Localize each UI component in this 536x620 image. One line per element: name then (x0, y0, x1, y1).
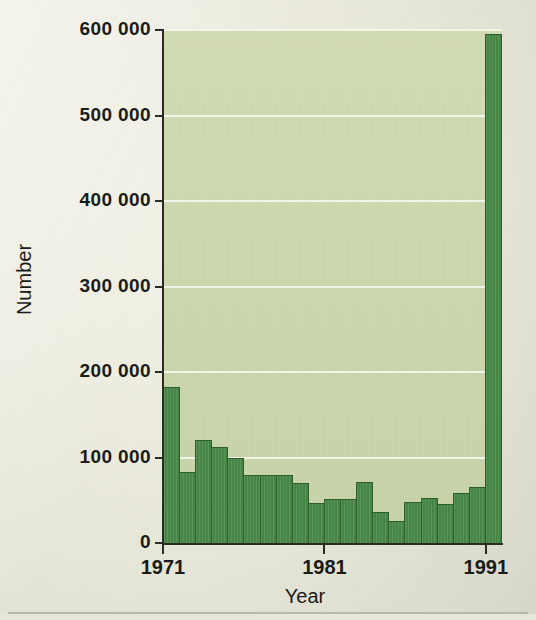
bar-series (163, 30, 502, 543)
bar-1972 (179, 472, 196, 543)
x-axis-title-text: Year (285, 585, 325, 608)
y-axis-line (162, 29, 164, 544)
chart-figure: Number 0100 000200 000300 000400 000500 … (0, 0, 536, 620)
bar-1981 (324, 499, 341, 543)
y-tick-label-100000: 100 000 (11, 446, 151, 468)
x-tick-label-1971: 1971 (141, 556, 186, 579)
x-axis-title: Year (0, 585, 536, 608)
y-tick-label-600000: 600 000 (11, 18, 151, 40)
bar-1986 (404, 502, 421, 543)
bar-1987 (421, 498, 438, 543)
bottom-strip (0, 614, 536, 620)
bar-1989 (453, 493, 470, 543)
bar-1984 (372, 512, 389, 543)
bar-1980 (308, 503, 325, 543)
bar-1982 (340, 499, 357, 543)
x-tick-1971 (162, 545, 164, 554)
bar-1991 (485, 34, 502, 543)
bar-1985 (388, 521, 405, 543)
x-tick-label-1981: 1981 (302, 556, 347, 579)
bar-1973 (195, 440, 212, 543)
bar-1977 (260, 475, 277, 543)
y-tick-label-0: 0 (11, 531, 151, 553)
plot-area (163, 30, 502, 543)
y-tick-label-200000: 200 000 (11, 360, 151, 382)
y-tick-label-400000: 400 000 (11, 189, 151, 211)
x-tick-label-1991: 1991 (464, 556, 509, 579)
y-tick-label-500000: 500 000 (11, 104, 151, 126)
bar-1988 (437, 504, 454, 543)
y-tick-label-300000: 300 000 (11, 275, 151, 297)
bar-1978 (276, 475, 293, 543)
x-axis-line (162, 543, 503, 545)
bar-1971 (163, 387, 180, 543)
bar-1979 (292, 483, 309, 543)
bar-1983 (356, 482, 373, 543)
x-tick-1981 (323, 545, 325, 554)
bar-1974 (211, 447, 228, 543)
bar-1990 (469, 487, 486, 543)
bar-1975 (227, 458, 244, 544)
x-tick-1991 (485, 545, 487, 554)
bar-1976 (243, 475, 260, 543)
